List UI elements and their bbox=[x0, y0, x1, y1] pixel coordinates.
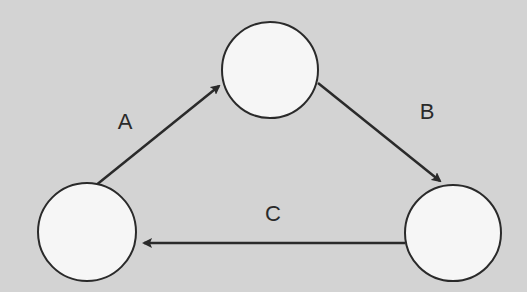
edge-label-b: B bbox=[420, 101, 435, 123]
node-left bbox=[38, 183, 136, 281]
node-top bbox=[222, 22, 318, 118]
diagram-canvas bbox=[0, 0, 527, 292]
edge-label-a: A bbox=[118, 111, 133, 133]
node-right bbox=[405, 185, 501, 281]
arrow-b bbox=[318, 83, 440, 181]
arrow-a bbox=[95, 86, 219, 186]
cycle-diagram: A B C bbox=[0, 0, 527, 292]
edge-label-c: C bbox=[265, 203, 281, 225]
